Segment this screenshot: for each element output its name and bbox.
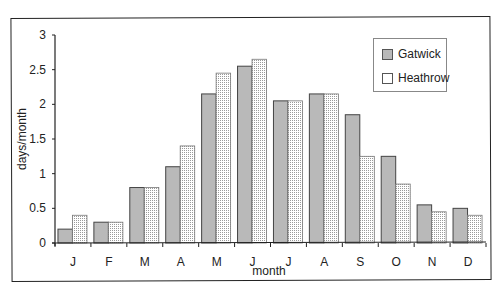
legend-item-heathrow: Heathrow (382, 71, 449, 85)
bar-heathrow-1 (108, 222, 123, 243)
bar-gatwick-2 (130, 188, 145, 243)
y-tick-label: 0 (39, 236, 46, 250)
legend-item-gatwick: Gatwick (382, 47, 441, 61)
legend-label-heathrow: Heathrow (398, 71, 449, 85)
x-tick-label: M (140, 255, 150, 269)
bar-gatwick-7 (309, 94, 324, 243)
bar-gatwick-11 (453, 208, 468, 243)
y-tick-label: 2.5 (29, 63, 46, 77)
x-tick-label: A (177, 255, 185, 269)
bar-gatwick-3 (166, 167, 181, 243)
bar-gatwick-5 (238, 66, 253, 243)
bar-heathrow-0 (72, 215, 87, 243)
x-tick-label: M (212, 255, 222, 269)
heathrow-swatch-icon (382, 73, 393, 84)
bar-heathrow-8 (360, 156, 375, 243)
x-tick-label: F (105, 255, 112, 269)
y-tick-label: 1.5 (29, 132, 46, 146)
bar-heathrow-5 (252, 59, 267, 243)
gatwick-swatch-icon (382, 49, 393, 60)
y-axis-title: days/month (15, 108, 29, 170)
bar-gatwick-9 (381, 156, 396, 243)
legend-label-gatwick: Gatwick (398, 47, 441, 61)
bar-heathrow-11 (468, 215, 483, 243)
x-tick-label: J (70, 255, 76, 269)
y-tick-label: 2 (39, 97, 46, 111)
x-tick-label: N (428, 255, 437, 269)
bar-heathrow-10 (432, 212, 447, 243)
bar-gatwick-10 (417, 205, 432, 243)
x-axis-title: month (252, 264, 285, 278)
bar-gatwick-0 (58, 229, 72, 243)
bar-gatwick-8 (345, 115, 360, 243)
bar-heathrow-3 (180, 146, 195, 243)
y-tick-label: 0.5 (29, 201, 46, 215)
legend: Gatwick Heathrow (373, 38, 447, 92)
x-tick-label: A (320, 255, 328, 269)
x-tick-label: S (356, 255, 364, 269)
bar-heathrow-7 (324, 94, 339, 243)
bar-heathrow-6 (288, 101, 303, 243)
x-tick-label: D (464, 255, 473, 269)
x-tick-label: J (285, 255, 291, 269)
bar-gatwick-4 (202, 94, 217, 243)
y-tick-label: 3 (39, 28, 46, 42)
bar-heathrow-4 (216, 73, 231, 243)
bar-heathrow-2 (144, 188, 159, 243)
x-tick-label: O (392, 255, 401, 269)
y-tick-label: 1 (39, 167, 46, 181)
bar-heathrow-9 (396, 184, 411, 243)
bar-gatwick-6 (273, 101, 288, 243)
bar-gatwick-1 (94, 222, 109, 243)
